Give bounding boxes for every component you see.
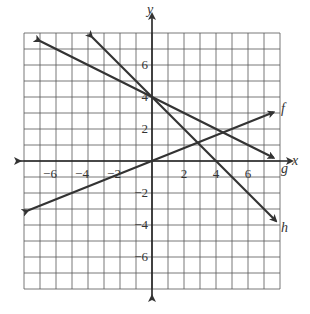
y-tick: 6 (142, 57, 149, 72)
y-tick: −6 (134, 249, 148, 264)
x-tick: 4 (213, 166, 220, 181)
y-tick: −2 (134, 185, 148, 200)
y-tick: 2 (142, 121, 149, 136)
line-h-label: h (281, 220, 288, 235)
line-f-label: f (281, 101, 287, 116)
x-tick: 6 (245, 166, 252, 181)
line-g (40, 41, 274, 158)
y-tick: −4 (134, 217, 148, 232)
coordinate-plane: x y −6 −4 −2 2 4 6 6 4 2 −2 −4 −6 f g h (0, 0, 310, 314)
y-axis-label: y (145, 2, 154, 17)
line-g-label: g (281, 161, 288, 176)
x-tick: −4 (75, 166, 89, 181)
x-tick: 2 (181, 166, 188, 181)
x-tick: −6 (43, 166, 57, 181)
x-axis-label: x (291, 153, 299, 168)
